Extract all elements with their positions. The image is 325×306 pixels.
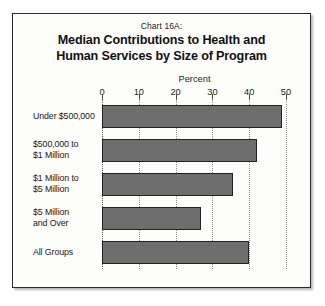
bar-1	[102, 105, 282, 128]
category-labels: Under $500,000$500,000 to$1 Million$1 Mi…	[33, 99, 103, 269]
tickmark-20	[176, 94, 177, 99]
chart-title: Median Contributions to Health and Human…	[13, 33, 310, 64]
chart-title-line-2: Human Services by Size of Program	[13, 49, 310, 65]
gridline-50	[286, 99, 288, 269]
tickmark-30	[212, 94, 213, 99]
category-label-1: Under $500,000	[33, 111, 105, 122]
bar-row	[102, 241, 286, 264]
bar-4	[102, 207, 201, 230]
tickmark-40	[249, 94, 250, 99]
chart-figure: Chart 16A: Median Contributions to Healt…	[12, 13, 311, 288]
category-label-3: $1 Million to$5 Million	[33, 173, 105, 195]
tickmark-10	[139, 94, 140, 99]
tickmark-50	[286, 94, 287, 99]
bar-row	[102, 105, 286, 128]
x-axis-tick-labels: 01020304050	[13, 87, 310, 99]
bar-row	[102, 139, 286, 162]
plot-area	[102, 99, 286, 269]
bar-3	[102, 173, 233, 196]
category-label-2: $500,000 to$1 Million	[33, 139, 105, 161]
category-label-4: $5 Millionand Over	[33, 207, 105, 229]
chart-title-line-1: Median Contributions to Health and	[13, 33, 310, 49]
bar-row	[102, 207, 286, 230]
bar-5	[102, 241, 249, 264]
chart-number-label: Chart 16A:	[13, 21, 310, 31]
bar-row	[102, 173, 286, 196]
bar-2	[102, 139, 257, 162]
x-axis-label: Percent	[102, 74, 287, 84]
category-label-5: All Groups	[33, 247, 105, 258]
